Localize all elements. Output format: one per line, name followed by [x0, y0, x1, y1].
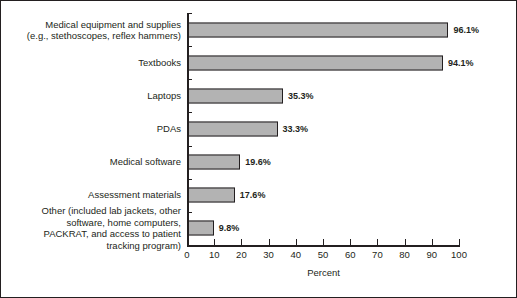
x-axis-tick [405, 239, 406, 245]
chart-figure: Medical equipment and supplies (e.g., st… [0, 0, 517, 298]
x-axis-tick [241, 239, 242, 245]
category-label: Textbooks [1, 57, 181, 68]
bar [187, 155, 240, 170]
x-axis-tick [187, 239, 188, 245]
x-axis-tick-label: 30 [263, 249, 274, 260]
bar-value-label: 94.1% [448, 58, 474, 68]
x-axis-tick [459, 239, 460, 245]
bar-value-label: 33.3% [283, 124, 309, 134]
x-axis-tick-label: 50 [318, 249, 329, 260]
category-label: Medical software [1, 156, 181, 167]
y-axis-tick [187, 212, 192, 213]
x-axis-tick [323, 239, 324, 245]
y-axis-tick [187, 112, 192, 113]
bar-value-label: 17.6% [240, 190, 266, 200]
y-axis-tick [187, 46, 192, 47]
bar [187, 22, 448, 37]
bar-row: Assessment materials17.6% [187, 179, 459, 212]
x-axis-tick [269, 239, 270, 245]
category-label: Assessment materials [1, 190, 181, 201]
category-label: Medical equipment and supplies (e.g., st… [1, 18, 181, 41]
y-axis-tick [187, 79, 192, 80]
x-axis-line [187, 245, 460, 247]
category-label: PDAs [1, 123, 181, 134]
x-axis-tick-label: 100 [451, 249, 467, 260]
bar-row: Medical software19.6% [187, 146, 459, 179]
x-axis-tick-label: 60 [345, 249, 356, 260]
x-axis-title: Percent [187, 267, 460, 278]
x-axis-tick-label: 10 [209, 249, 220, 260]
bar [187, 88, 283, 103]
x-axis-tick-label: 0 [184, 249, 189, 260]
x-axis-tick-label: 80 [399, 249, 410, 260]
x-axis-tick [350, 239, 351, 245]
bar-row: Medical equipment and supplies (e.g., st… [187, 13, 459, 46]
bar-row: Laptops35.3% [187, 79, 459, 112]
bar-row: Textbooks94.1% [187, 46, 459, 79]
bar [187, 221, 214, 236]
x-axis-tick-label: 40 [291, 249, 302, 260]
bar-row: PDAs33.3% [187, 112, 459, 145]
y-axis-tick [187, 13, 192, 14]
bar-value-label: 9.8% [219, 223, 240, 233]
x-axis-tick [432, 239, 433, 245]
x-axis-tick-label: 90 [427, 249, 438, 260]
bar [187, 55, 443, 70]
y-axis-tick [187, 179, 192, 180]
bar-value-label: 19.6% [245, 157, 271, 167]
category-label: Laptops [1, 90, 181, 101]
x-axis-tick [214, 239, 215, 245]
y-axis-tick [187, 146, 192, 147]
x-axis-tick-label: 20 [236, 249, 247, 260]
plot-area: Medical equipment and supplies (e.g., st… [187, 13, 459, 245]
bar-value-label: 96.1% [453, 25, 479, 35]
category-label: Other (included lab jackets, other softw… [1, 206, 181, 252]
bar [187, 121, 278, 136]
bar [187, 188, 235, 203]
x-axis-tick-label: 70 [372, 249, 383, 260]
x-axis-tick [377, 239, 378, 245]
bar-value-label: 35.3% [288, 91, 314, 101]
x-axis-tick [296, 239, 297, 245]
